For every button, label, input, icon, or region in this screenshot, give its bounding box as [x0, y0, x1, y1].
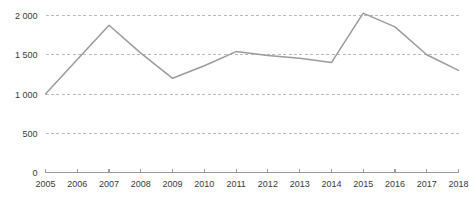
gridlines [46, 16, 459, 134]
y-axis-tick-label: 0 [32, 168, 37, 178]
y-axis-tick-label: 2 000 [15, 11, 38, 21]
y-axis-tick-label: 1 500 [15, 50, 38, 60]
x-axis-tick-label: 2016 [385, 179, 405, 189]
x-axis-tick-label: 2007 [99, 179, 119, 189]
y-axis-tick-label: 1 000 [15, 90, 38, 100]
x-axis-tick-label: 2011 [226, 179, 245, 189]
line-chart: 05001 0001 5002 000 20052006200720082009… [0, 0, 469, 199]
x-axis-tick-label: 2018 [448, 179, 468, 189]
y-axis-tick-label: 500 [22, 129, 37, 139]
x-axis-tick-labels: 2005200620072008200920102011201220132014… [35, 179, 468, 189]
x-axis-tick-label: 2017 [417, 179, 437, 189]
x-axis-tick-label: 2010 [194, 179, 214, 189]
x-axis-tick-label: 2014 [321, 179, 341, 189]
x-axis-tick-label: 2015 [353, 179, 373, 189]
x-axis-tick-label: 2013 [290, 179, 310, 189]
x-axis-tick-label: 2008 [131, 179, 151, 189]
chart-canvas: 05001 0001 5002 000 20052006200720082009… [0, 0, 469, 199]
x-axis-tick-label: 2012 [258, 179, 278, 189]
data-series [46, 13, 459, 94]
series-line [46, 13, 459, 94]
x-axis [45, 169, 459, 173]
x-axis-tick-label: 2009 [163, 179, 183, 189]
x-axis-tick-label: 2005 [35, 179, 55, 189]
y-axis-tick-labels: 05001 0001 5002 000 [15, 11, 38, 178]
x-axis-tick-label: 2006 [67, 179, 87, 189]
